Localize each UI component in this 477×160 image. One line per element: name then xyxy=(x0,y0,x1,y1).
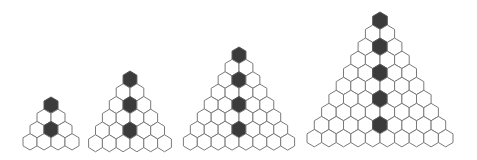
hex-triangle-6-rows xyxy=(89,71,172,152)
hexagon xyxy=(37,134,51,150)
hexagon xyxy=(267,134,281,151)
hexagon xyxy=(116,135,130,152)
hexagon xyxy=(197,134,211,151)
hexagon xyxy=(307,129,322,146)
hexagon xyxy=(351,129,366,146)
hexagon xyxy=(239,134,253,151)
hex-triangle-10-rows xyxy=(307,12,453,147)
hexagon xyxy=(225,134,239,151)
hexagon xyxy=(65,134,79,150)
hexagon xyxy=(424,129,439,146)
hexagon xyxy=(51,134,65,150)
hexagon xyxy=(395,129,410,146)
hexagon xyxy=(365,129,380,146)
hexagon xyxy=(322,129,337,146)
hexagon xyxy=(253,134,267,151)
hexagon xyxy=(380,129,395,146)
hexagon xyxy=(336,129,351,146)
hex-triangle-4-rows xyxy=(23,97,79,150)
hex-triangle-8-rows xyxy=(183,47,294,150)
hexagon xyxy=(438,129,453,146)
hexagon xyxy=(102,135,116,152)
hexagon xyxy=(130,135,144,152)
hexagon xyxy=(281,134,295,151)
hexagon xyxy=(211,134,225,151)
hexagon xyxy=(183,134,197,151)
hexagon xyxy=(409,129,424,146)
hexagon xyxy=(144,135,158,152)
hexagon xyxy=(89,135,103,152)
hexagon xyxy=(158,135,172,152)
hexagon xyxy=(23,134,37,150)
hexagon-triangles-diagram xyxy=(0,0,477,160)
